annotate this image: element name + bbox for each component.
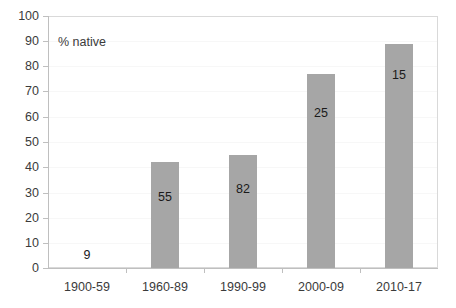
x-tick-label-1900-59: 1900-59 bbox=[42, 281, 132, 294]
y-tick-mark bbox=[43, 91, 48, 92]
y-tick-mark bbox=[43, 243, 48, 244]
bar-label-2010-17: 15 bbox=[379, 69, 419, 82]
gridline bbox=[49, 117, 437, 118]
gridline bbox=[49, 142, 437, 143]
y-tick-label: 20 bbox=[0, 212, 39, 225]
y-tick-label: 70 bbox=[0, 85, 39, 98]
y-axis-line bbox=[48, 16, 49, 268]
y-tick-mark bbox=[43, 16, 48, 17]
bar-label-2000-09: 25 bbox=[301, 107, 341, 120]
x-tick-mark bbox=[282, 268, 283, 273]
y-tick-mark bbox=[43, 193, 48, 194]
gridline bbox=[49, 91, 437, 92]
bar-label-1960-89: 55 bbox=[145, 191, 185, 204]
x-tick-label-2000-09: 2000-09 bbox=[276, 281, 366, 294]
y-tick-label: 50 bbox=[0, 136, 39, 149]
y-tick-mark bbox=[43, 66, 48, 67]
x-tick-mark bbox=[204, 268, 205, 273]
y-tick-label: 80 bbox=[0, 60, 39, 73]
bar-2000-09 bbox=[307, 74, 335, 268]
bar-label-1990-99: 82 bbox=[223, 183, 263, 196]
y-tick-label: 0 bbox=[0, 262, 39, 275]
y-tick-mark bbox=[43, 142, 48, 143]
y-tick-mark bbox=[43, 218, 48, 219]
y-tick-mark bbox=[43, 117, 48, 118]
y-tick-label: 90 bbox=[0, 35, 39, 48]
gridline bbox=[49, 66, 437, 67]
y-tick-label: 30 bbox=[0, 187, 39, 200]
x-axis-line bbox=[48, 268, 438, 269]
x-tick-mark bbox=[360, 268, 361, 273]
bar-1990-99 bbox=[229, 155, 257, 268]
series-caption: % native bbox=[58, 36, 106, 49]
y-tick-mark bbox=[43, 41, 48, 42]
x-tick-label-2010-17: 2010-17 bbox=[354, 281, 444, 294]
gridline bbox=[49, 41, 437, 42]
bar-1960-89 bbox=[151, 162, 179, 268]
bar-chart: % native 100 90 80 70 60 50 40 30 20 10 … bbox=[0, 0, 456, 308]
y-tick-label: 100 bbox=[0, 10, 39, 23]
bar-label-1900-59: 9 bbox=[67, 249, 107, 262]
y-tick-mark bbox=[43, 167, 48, 168]
x-tick-label-1960-89: 1960-89 bbox=[120, 281, 210, 294]
x-tick-label-1990-99: 1990-99 bbox=[198, 281, 288, 294]
x-tick-mark bbox=[126, 268, 127, 273]
y-tick-label: 40 bbox=[0, 161, 39, 174]
y-tick-label: 60 bbox=[0, 111, 39, 124]
y-tick-label: 10 bbox=[0, 237, 39, 250]
